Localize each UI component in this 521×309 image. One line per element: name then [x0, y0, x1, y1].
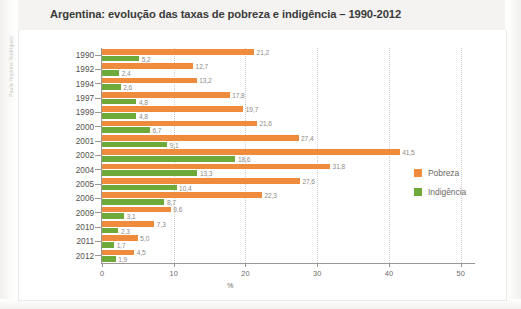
y-tick-2006	[95, 198, 101, 199]
bar-pobreza-2000	[102, 121, 257, 127]
y-axis-label-2000: 2000	[76, 122, 94, 131]
bar-pobreza-1999	[102, 106, 243, 112]
bar-value-indigencia-2002: 18,6	[238, 156, 250, 163]
scan-edge-right	[505, 0, 521, 309]
gridline-30	[317, 48, 318, 263]
y-tick-2011	[95, 241, 101, 242]
y-axis-label-2006: 2006	[76, 194, 94, 203]
bar-indigencia-1992	[102, 70, 119, 76]
legend-label-pobreza: Pobreza	[428, 168, 459, 178]
bar-value-pobreza-1990: 21,2	[257, 48, 269, 55]
bar-pobreza-1994	[102, 78, 197, 84]
bar-indigencia-1997	[102, 99, 136, 105]
bar-value-indigencia-2010: 2,3	[121, 227, 130, 234]
legend-item-pobreza: Pobreza	[414, 168, 466, 178]
legend-swatch-pobreza	[414, 169, 422, 177]
bar-value-indigencia-2009: 3,1	[127, 213, 136, 220]
y-tick-1992	[95, 69, 101, 70]
bar-pobreza-2005	[102, 178, 300, 184]
bar-pobreza-2006	[102, 192, 262, 198]
x-tick-label-30: 30	[313, 269, 321, 278]
bar-pobreza-1992	[102, 63, 193, 69]
bar-value-indigencia-2011: 1,7	[117, 242, 126, 249]
bar-indigencia-2000	[102, 127, 150, 133]
bar-value-pobreza-2009: 9,6	[173, 206, 182, 213]
bar-pobreza-2001	[102, 135, 299, 141]
y-axis-label-1994: 1994	[76, 79, 94, 88]
y-axis-label-1999: 1999	[76, 108, 94, 117]
bar-value-pobreza-2011: 5,0	[140, 235, 149, 242]
bar-value-pobreza-2012: 4,5	[137, 249, 146, 256]
legend-swatch-indigencia	[414, 188, 422, 196]
y-axis-label-2012: 2012	[76, 251, 94, 260]
bar-indigencia-2001	[102, 142, 167, 148]
bar-indigencia-2004	[102, 170, 197, 176]
bar-value-pobreza-1994: 13,2	[199, 77, 211, 84]
y-tick-2012	[95, 255, 101, 256]
bar-pobreza-1990	[102, 49, 254, 55]
bar-indigencia-1990	[102, 56, 139, 62]
bar-value-indigencia-2005: 10,4	[179, 184, 191, 191]
y-tick-1994	[95, 83, 101, 84]
bar-value-pobreza-2005: 27,6	[302, 177, 314, 184]
title-band: Argentina: evolução das taxas de pobreza…	[18, 0, 505, 31]
bar-pobreza-2010	[102, 221, 154, 227]
x-axis-title: %	[227, 281, 233, 290]
y-axis-label-1992: 1992	[76, 65, 94, 74]
bar-indigencia-1994	[102, 84, 121, 90]
bar-value-indigencia-2006: 8,7	[167, 199, 176, 206]
y-axis-label-1997: 1997	[76, 94, 94, 103]
bar-pobreza-1997	[102, 92, 230, 98]
y-tick-2002	[95, 155, 101, 156]
bar-value-pobreza-1999: 19,7	[246, 106, 258, 113]
bar-value-indigencia-1994: 2,6	[123, 84, 132, 91]
bar-pobreza-2011	[102, 235, 138, 241]
bar-indigencia-1999	[102, 113, 136, 119]
bar-pobreza-2004	[102, 164, 330, 170]
bar-value-pobreza-1997: 17,8	[232, 91, 244, 98]
gridline-50	[461, 48, 462, 263]
x-tick-label-50: 50	[457, 269, 465, 278]
gridline-40	[389, 48, 390, 263]
y-tick-2000	[95, 126, 101, 127]
bar-value-indigencia-2001: 9,1	[170, 141, 179, 148]
bar-value-pobreza-2000: 21,6	[259, 120, 271, 127]
bar-indigencia-2009	[102, 213, 124, 219]
y-tick-2004	[95, 169, 101, 170]
x-tick-label-40: 40	[385, 269, 393, 278]
legend-label-indigencia: Indigência	[428, 187, 466, 197]
bar-indigencia-2005	[102, 185, 177, 191]
x-tick-label-20: 20	[241, 269, 249, 278]
bar-value-pobreza-1992: 12,7	[196, 63, 208, 70]
x-tick-label-0: 0	[100, 269, 104, 278]
bar-value-indigencia-1999: 4,8	[139, 113, 148, 120]
y-axis-label-2010: 2010	[76, 223, 94, 232]
bar-value-indigencia-2004: 13,3	[200, 170, 212, 177]
bar-value-indigencia-1992: 2,4	[122, 70, 131, 77]
bar-indigencia-2011	[102, 242, 114, 248]
y-axis-label-1990: 1990	[76, 51, 94, 60]
bar-pobreza-2002	[102, 149, 400, 155]
chart-legend: Pobreza Indigência	[414, 168, 466, 206]
y-axis-label-2002: 2002	[76, 151, 94, 160]
bar-indigencia-2006	[102, 199, 164, 205]
bar-value-pobreza-2002: 41,5	[402, 149, 414, 156]
legend-item-indigencia: Indigência	[414, 187, 466, 197]
photo-credit: Paula Hopkins Rodrigues	[8, 33, 14, 97]
bar-indigencia-2002	[102, 156, 235, 162]
bar-value-indigencia-2000: 6,7	[153, 127, 162, 134]
y-tick-2005	[95, 184, 101, 185]
bar-pobreza-2009	[102, 207, 171, 213]
bar-value-indigencia-1997: 4,8	[139, 98, 148, 105]
y-axis-label-2004: 2004	[76, 165, 94, 174]
y-axis-label-2011: 2011	[76, 237, 94, 246]
y-tick-1999	[95, 112, 101, 113]
bar-value-pobreza-2004: 31,8	[333, 163, 345, 170]
y-axis-label-2001: 2001	[76, 137, 94, 146]
bar-value-pobreza-2001: 27,4	[301, 134, 313, 141]
bar-value-pobreza-2010: 7,3	[157, 220, 166, 227]
plot-card: 01020304050%199021,25,2199212,72,4199413…	[18, 30, 507, 301]
x-axis-line	[101, 263, 475, 264]
y-axis-label-2009: 2009	[76, 208, 94, 217]
x-tick-label-10: 10	[170, 269, 178, 278]
